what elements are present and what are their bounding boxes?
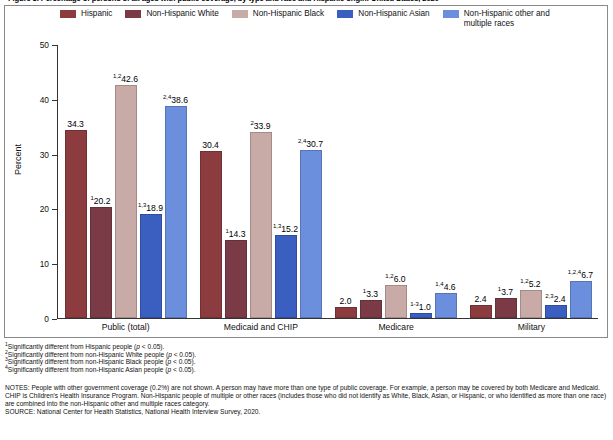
bar-value-label: 1,26.0 <box>385 274 405 284</box>
footnote-p-symbol: p <box>167 366 171 373</box>
legend-item-label: Hispanic <box>81 9 112 19</box>
bar-value-number: 15.2 <box>281 224 298 234</box>
bar[interactable] <box>495 298 517 318</box>
bar-value-label: 1,2,46.7 <box>568 270 593 280</box>
bar-value-label: 2,32.4 <box>545 294 565 304</box>
legend-item: Hispanic <box>60 9 112 19</box>
footnote-p-symbol: p <box>168 351 172 358</box>
x-axis-category-label: Medicaid and CHIP <box>193 322 328 332</box>
legend-swatch-icon <box>60 10 76 18</box>
footnote-line: 4Significantly different from non-Hispan… <box>5 366 609 374</box>
x-axis-category-label: Medicare <box>329 322 464 332</box>
bar[interactable] <box>165 106 187 318</box>
bar-slot: 1,318.9 <box>140 45 162 318</box>
y-axis-tick-label: 10 <box>40 259 49 269</box>
bar[interactable] <box>545 305 567 318</box>
bar-value-number: 2.0 <box>340 296 352 306</box>
bar-value-label: 1,44.6 <box>435 282 455 292</box>
bar[interactable] <box>470 305 492 318</box>
bar-slot: 1,242.6 <box>115 45 137 318</box>
bar[interactable] <box>200 151 222 318</box>
legend-swatch-icon <box>232 10 248 18</box>
bar-slot: 34.3 <box>65 45 87 318</box>
x-axis-category-label: Public (total) <box>58 322 193 332</box>
legend-item: Non-Hispanic Black <box>232 9 324 19</box>
bar-value-label: 2.4 <box>475 294 487 304</box>
bar[interactable] <box>570 281 592 318</box>
bar[interactable] <box>385 285 407 318</box>
bar[interactable] <box>225 240 247 318</box>
bar-value-number: 4.6 <box>444 282 456 292</box>
bar-value-label: 120.2 <box>90 196 110 206</box>
bar-group: 34.3120.21,242.61,318.92,438.6 <box>58 45 193 318</box>
y-axis-tick: 10 <box>52 264 57 265</box>
footnote-marker: 4 <box>5 364 8 370</box>
bar-value-label: 114.3 <box>225 229 245 239</box>
bar-slot: 1,25.2 <box>520 45 542 318</box>
bar-slot: 30.4 <box>200 45 222 318</box>
y-axis-tick: 30 <box>52 155 57 156</box>
bar-value-number: 18.9 <box>146 203 163 213</box>
footnote-marker: 1 <box>5 341 8 347</box>
bar-slot: 13.7 <box>495 45 517 318</box>
bar-value-label: 1,25.2 <box>520 279 540 289</box>
notes-text: NOTES: People with other government cove… <box>5 384 611 407</box>
bar-slot: 2.4 <box>470 45 492 318</box>
bar-value-number: 34.3 <box>67 119 84 129</box>
bar-slot: 2,430.7 <box>300 45 322 318</box>
bar-groups: 34.3120.21,242.61,318.92,438.630.4114.32… <box>58 45 598 318</box>
bar-value-number: 1.0 <box>419 302 431 312</box>
bar-value-number: 3.7 <box>501 287 513 297</box>
y-axis-tick-label: 30 <box>40 150 49 160</box>
bar-value-number: 20.2 <box>94 196 111 206</box>
bar-value-superscript: 1,2,4 <box>568 269 581 275</box>
bar[interactable] <box>520 290 542 318</box>
legend-item-label: Non-Hispanic other and multiple races <box>464 9 550 29</box>
legend-item: Non-Hispanic Asian <box>337 9 429 19</box>
bar-value-number: 5.2 <box>529 279 541 289</box>
bar-slot: 2,32.4 <box>545 45 567 318</box>
legend-swatch-icon <box>443 10 459 18</box>
bar-value-superscript: 1-3 <box>410 301 419 307</box>
bar-value-label: 2,438.6 <box>163 95 188 105</box>
bar-value-label: 13.3 <box>363 289 378 299</box>
bar-value-number: 2.4 <box>475 294 487 304</box>
bar[interactable] <box>90 207 112 318</box>
bar-value-number: 30.7 <box>306 139 323 149</box>
y-axis-tick: 20 <box>52 209 57 210</box>
bar[interactable] <box>115 85 137 318</box>
bar[interactable] <box>300 150 322 318</box>
bar-value-label: 1,315.2 <box>273 224 298 234</box>
bar[interactable] <box>360 300 382 318</box>
footnote-marker: 2 <box>5 348 8 354</box>
bar[interactable] <box>140 214 162 318</box>
bar[interactable] <box>250 132 272 318</box>
source-text: SOURCE: National Center for Health Stati… <box>5 408 611 416</box>
bar-value-superscript: 2,3 <box>545 293 553 299</box>
legend-item-label: Non-Hispanic White <box>146 9 218 19</box>
footnote-p-symbol: p <box>136 343 140 350</box>
bar-value-label: 2,430.7 <box>298 139 323 149</box>
bar-value-label: 1,318.9 <box>138 203 163 213</box>
bar[interactable] <box>275 235 297 318</box>
bar[interactable] <box>65 130 87 318</box>
bar[interactable] <box>435 293 457 318</box>
bar-value-number: 30.4 <box>202 140 219 150</box>
bar-slot: 120.2 <box>90 45 112 318</box>
bar[interactable] <box>410 313 432 318</box>
bar-slot: 2.0 <box>335 45 357 318</box>
bar-slot: 233.9 <box>250 45 272 318</box>
footnote-p-symbol: p <box>167 358 171 365</box>
bar-slot: 1,315.2 <box>275 45 297 318</box>
bar-value-number: 33.9 <box>254 121 271 131</box>
bar[interactable] <box>335 307 357 318</box>
bar-value-number: 14.3 <box>229 229 246 239</box>
bar-group: 30.4114.3233.91,315.22,430.7 <box>193 45 328 318</box>
footnote-line: 3Significantly different from non-Hispan… <box>5 358 609 366</box>
bar-value-superscript: 1,2 <box>520 278 528 284</box>
y-axis-tick-label: 20 <box>40 204 49 214</box>
bar-value-superscript: 1,4 <box>435 281 443 287</box>
chart-legend: HispanicNon-Hispanic WhiteNon-Hispanic B… <box>60 9 605 39</box>
y-axis-tick: 40 <box>52 100 57 101</box>
bar-value-number: 38.6 <box>171 95 188 105</box>
